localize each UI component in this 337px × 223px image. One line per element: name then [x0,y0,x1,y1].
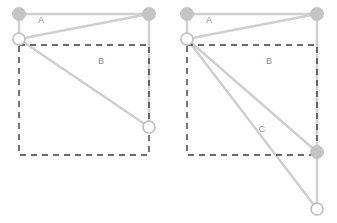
region-label-b: B [98,56,104,66]
region-label-c: C [259,124,266,134]
diagram-canvas: AB ABC [0,0,337,223]
node-n-mid-right-filled[interactable] [311,146,324,159]
panel-left: AB [0,0,168,223]
edge-n-hinge-left-to-n-mid-right [187,39,317,152]
edge-n-hinge-left-to-n-bottom-right [19,39,149,127]
node-n-top-right-filled[interactable] [311,8,324,21]
panel-right-dashed-rect [187,45,317,155]
panel-right-edges [187,14,317,209]
node-n-top-right-filled[interactable] [143,8,156,21]
panel-left-dashed-rect [19,45,149,155]
dashed-boundary-rect [19,45,149,155]
panel-left-svg: AB [0,0,168,223]
panel-right-svg: ABC [168,0,337,223]
node-n-top-left-filled[interactable] [13,8,26,21]
node-n-bottom-right-open[interactable] [311,203,323,215]
edge-n-hinge-left-to-n-bottom-right [187,39,317,209]
region-label-a: A [38,15,44,25]
dashed-boundary-rect [187,45,317,155]
node-n-hinge-left-open[interactable] [181,33,193,45]
panel-right: ABC [168,0,337,223]
panel-left-edges [19,14,149,127]
region-label-b: B [266,56,272,66]
panel-right-nodes [181,8,324,216]
node-n-bottom-right-open[interactable] [143,121,155,133]
region-label-a: A [206,15,212,25]
node-n-hinge-left-open[interactable] [13,33,25,45]
node-n-top-left-filled[interactable] [181,8,194,21]
